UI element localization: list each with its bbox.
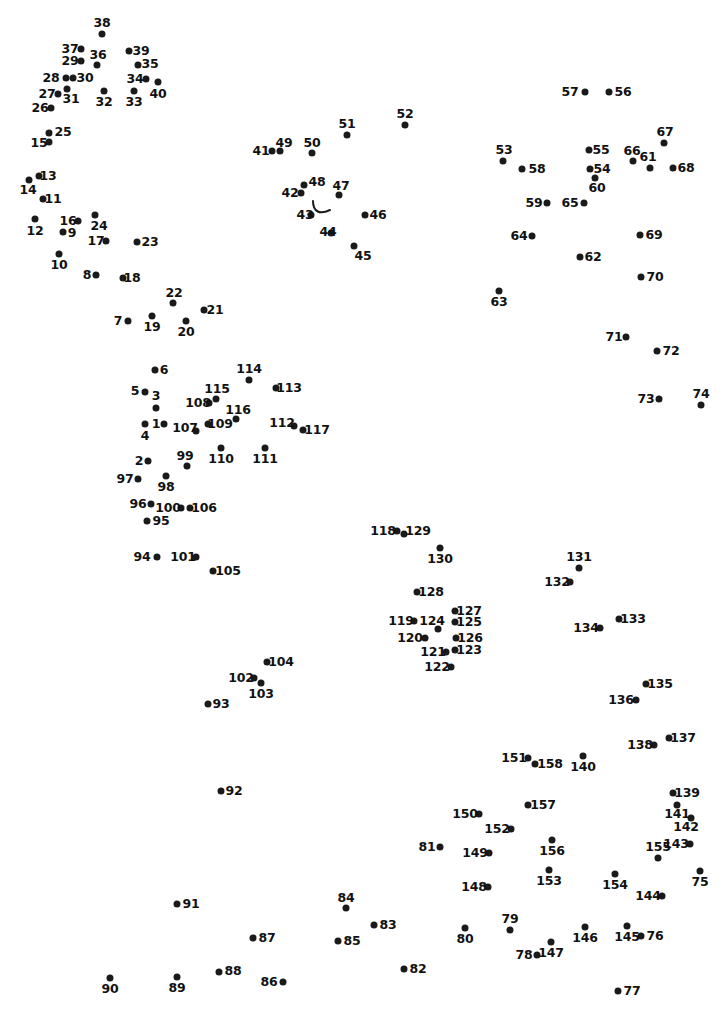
puzzle-dot[interactable]	[269, 148, 276, 155]
puzzle-dot[interactable]	[48, 105, 55, 112]
puzzle-dot[interactable]	[630, 158, 637, 165]
puzzle-dot[interactable]	[70, 75, 77, 82]
puzzle-dot[interactable]	[577, 254, 584, 261]
puzzle-dot[interactable]	[46, 130, 53, 137]
puzzle-dot-label: 29	[62, 55, 79, 68]
puzzle-dot-label: 108	[185, 397, 211, 410]
puzzle-dot[interactable]	[154, 554, 161, 561]
puzzle-dot[interactable]	[144, 518, 151, 525]
puzzle-dot[interactable]	[661, 140, 668, 147]
puzzle-dot[interactable]	[280, 979, 287, 986]
puzzle-dot-label: 46	[370, 209, 387, 222]
puzzle-dot[interactable]	[654, 348, 661, 355]
puzzle-dot[interactable]	[126, 48, 133, 55]
puzzle-dot-label: 53	[496, 144, 513, 157]
puzzle-dot[interactable]	[142, 389, 149, 396]
puzzle-dot-label: 61	[640, 151, 657, 164]
puzzle-dot-label: 1	[152, 418, 161, 431]
puzzle-dot[interactable]	[298, 190, 305, 197]
puzzle-dot[interactable]	[218, 788, 225, 795]
puzzle-dot[interactable]	[371, 922, 378, 929]
puzzle-dot-label: 140	[570, 761, 596, 774]
puzzle-dot[interactable]	[93, 272, 100, 279]
puzzle-dot[interactable]	[184, 463, 191, 470]
puzzle-dot[interactable]	[170, 300, 177, 307]
puzzle-dot[interactable]	[152, 367, 159, 374]
puzzle-dot-label: 110	[208, 453, 234, 466]
puzzle-dot-label: 112	[269, 417, 295, 430]
puzzle-dot[interactable]	[155, 79, 162, 86]
puzzle-dot[interactable]	[78, 46, 85, 53]
puzzle-dot[interactable]	[637, 232, 644, 239]
puzzle-dot[interactable]	[362, 212, 369, 219]
puzzle-dot[interactable]	[402, 122, 409, 129]
puzzle-dot[interactable]	[78, 58, 85, 65]
puzzle-dot-label: 12	[27, 225, 44, 238]
puzzle-dot-label: 136	[608, 694, 634, 707]
puzzle-dot-label: 87	[259, 932, 276, 945]
puzzle-dot[interactable]	[615, 988, 622, 995]
puzzle-dot[interactable]	[581, 200, 588, 207]
puzzle-dot[interactable]	[301, 182, 308, 189]
puzzle-dot-label: 32	[96, 96, 113, 109]
puzzle-dot[interactable]	[246, 377, 253, 384]
puzzle-dot[interactable]	[335, 938, 342, 945]
puzzle-dot[interactable]	[500, 158, 507, 165]
puzzle-dot-label: 33	[126, 96, 143, 109]
puzzle-dot[interactable]	[344, 132, 351, 139]
puzzle-dot[interactable]	[145, 458, 152, 465]
puzzle-dot[interactable]	[148, 501, 155, 508]
puzzle-dot-label: 26	[32, 102, 49, 115]
puzzle-dot[interactable]	[586, 147, 593, 154]
puzzle-dot-label: 79	[502, 913, 519, 926]
puzzle-dot-label: 2	[135, 455, 144, 468]
puzzle-dot-label: 11	[45, 193, 62, 206]
puzzle-dot-label: 107	[172, 422, 198, 435]
puzzle-dot[interactable]	[519, 166, 526, 173]
puzzle-dot[interactable]	[250, 935, 257, 942]
puzzle-dot[interactable]	[135, 62, 142, 69]
puzzle-dot[interactable]	[32, 216, 39, 223]
puzzle-dot-label: 36	[90, 49, 107, 62]
puzzle-dot[interactable]	[544, 200, 551, 207]
puzzle-dot-label: 155	[645, 841, 671, 854]
puzzle-dot[interactable]	[60, 229, 67, 236]
puzzle-dot[interactable]	[670, 165, 677, 172]
puzzle-dot[interactable]	[437, 844, 444, 851]
puzzle-dot[interactable]	[174, 901, 181, 908]
puzzle-dot-label: 66	[624, 145, 641, 158]
puzzle-dot[interactable]	[134, 239, 141, 246]
puzzle-dot[interactable]	[587, 166, 594, 173]
puzzle-dot[interactable]	[213, 396, 220, 403]
puzzle-dot[interactable]	[309, 150, 316, 157]
puzzle-dot-label: 49	[276, 137, 293, 150]
puzzle-dot[interactable]	[153, 405, 160, 412]
puzzle-dot[interactable]	[647, 165, 654, 172]
puzzle-dot[interactable]	[656, 396, 663, 403]
puzzle-dot[interactable]	[698, 402, 705, 409]
puzzle-dot[interactable]	[507, 927, 514, 934]
puzzle-dot[interactable]	[655, 855, 662, 862]
puzzle-dot[interactable]	[606, 89, 613, 96]
puzzle-dot[interactable]	[582, 89, 589, 96]
puzzle-dot[interactable]	[576, 565, 583, 572]
puzzle-dot[interactable]	[638, 274, 645, 281]
puzzle-dot-label: 25	[55, 126, 72, 139]
puzzle-dot[interactable]	[143, 76, 150, 83]
puzzle-dot[interactable]	[94, 62, 101, 69]
puzzle-dot[interactable]	[142, 421, 149, 428]
puzzle-dot[interactable]	[216, 969, 223, 976]
puzzle-dot[interactable]	[135, 476, 142, 483]
puzzle-dot[interactable]	[125, 318, 132, 325]
puzzle-dot-label: 50	[304, 137, 321, 150]
puzzle-dot[interactable]	[623, 334, 630, 341]
puzzle-dot[interactable]	[99, 31, 106, 38]
puzzle-dot[interactable]	[55, 91, 62, 98]
puzzle-dot[interactable]	[161, 421, 168, 428]
puzzle-dot[interactable]	[63, 75, 70, 82]
puzzle-dot-label: 62	[585, 251, 602, 264]
puzzle-dot[interactable]	[529, 233, 536, 240]
puzzle-dot[interactable]	[343, 905, 350, 912]
puzzle-dot[interactable]	[401, 966, 408, 973]
puzzle-dot[interactable]	[205, 701, 212, 708]
